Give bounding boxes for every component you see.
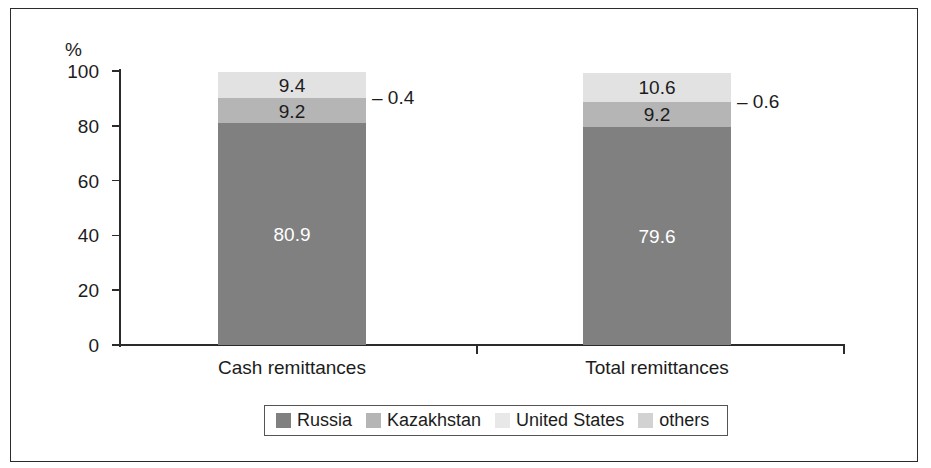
bar-segment-value: 9.2 xyxy=(218,101,366,120)
figure-frame: % 020406080100 9.49.280.910.69.279.6 Cas… xyxy=(10,8,918,462)
bar-segment-kazakhstan[interactable]: 9.2 xyxy=(583,102,731,127)
y-axis-tick-label: 0 xyxy=(37,336,99,355)
y-axis-tick xyxy=(112,180,120,182)
y-axis-tick xyxy=(112,125,120,127)
bar-segment-value: 79.6 xyxy=(583,226,731,245)
bar-segment-value: 10.6 xyxy=(583,78,731,97)
legend-swatch-icon xyxy=(638,413,653,428)
legend-swatch-icon xyxy=(276,413,291,428)
legend-item-kazakhstan[interactable]: Kazakhstan xyxy=(366,410,481,431)
y-axis-tick xyxy=(112,289,120,291)
bar-segment-value: 9.4 xyxy=(218,76,366,95)
legend-item-label: others xyxy=(659,410,709,431)
bar-cash-remittances[interactable]: 9.49.280.9 xyxy=(218,72,366,345)
legend-item-others[interactable]: others xyxy=(638,410,709,431)
x-axis-category-label: Total remittances xyxy=(547,357,767,379)
bar-segment-value: 80.9 xyxy=(218,225,366,244)
chart-legend: RussiaKazakhstanUnited Statesothers xyxy=(264,405,728,436)
bar-total-remittances[interactable]: 10.69.279.6 xyxy=(583,73,731,345)
y-axis-tick-label: 60 xyxy=(37,172,99,191)
bar-segment-kazakhstan[interactable]: 9.2 xyxy=(218,98,366,123)
x-axis-tick xyxy=(843,345,845,354)
x-axis-tick xyxy=(476,345,478,354)
bar-segment-russia[interactable]: 79.6 xyxy=(583,127,731,345)
legend-swatch-icon xyxy=(495,413,510,428)
plot-area: 9.49.280.910.69.279.6 xyxy=(121,71,843,345)
y-axis-tick-label: 80 xyxy=(37,117,99,136)
others-callout-label: – 0.6 xyxy=(737,92,779,111)
x-axis-category-label: Cash remittances xyxy=(182,357,402,379)
legend-item-united-states[interactable]: United States xyxy=(495,410,624,431)
legend-item-label: Russia xyxy=(297,410,352,431)
y-axis-tick-label: 100 xyxy=(37,62,99,81)
y-axis-tick xyxy=(112,344,120,346)
bar-segment-united-states[interactable]: 9.4 xyxy=(218,72,366,98)
y-axis-tick-label: 40 xyxy=(37,226,99,245)
y-axis-tick xyxy=(112,70,120,72)
legend-swatch-icon xyxy=(366,413,381,428)
bar-segment-value: 9.2 xyxy=(583,105,731,124)
y-axis-tick xyxy=(112,235,120,237)
y-axis-tick-label: 20 xyxy=(37,281,99,300)
legend-item-label: Kazakhstan xyxy=(387,410,481,431)
bar-segment-united-states[interactable]: 10.6 xyxy=(583,73,731,102)
legend-item-label: United States xyxy=(516,410,624,431)
others-callout-label: – 0.4 xyxy=(372,88,414,107)
y-axis-title: % xyxy=(65,39,82,61)
bar-segment-russia[interactable]: 80.9 xyxy=(218,123,366,345)
legend-item-russia[interactable]: Russia xyxy=(276,410,352,431)
